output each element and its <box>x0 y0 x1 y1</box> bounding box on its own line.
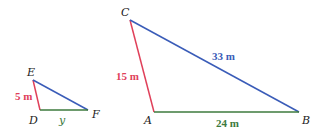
side-label-DF: y <box>58 114 66 127</box>
vertex-label-A: A <box>143 114 152 127</box>
vertex-label-E: E <box>26 66 35 79</box>
side-CB <box>130 20 299 112</box>
vertex-label-C: C <box>121 6 130 19</box>
vertex-label-D: D <box>28 114 38 127</box>
side-label-CA: 15 m <box>116 70 139 82</box>
similar-triangles-diagram: E D F 5 m y C A B 15 m 33 m 24 m <box>0 0 323 132</box>
side-EF <box>33 80 88 110</box>
vertex-label-F: F <box>91 108 100 121</box>
side-label-ED: 5 m <box>15 90 32 102</box>
side-label-AB: 24 m <box>216 117 239 129</box>
vertex-label-B: B <box>301 114 310 127</box>
side-ED <box>33 80 40 110</box>
small-triangle: E D F 5 m y <box>15 66 100 127</box>
side-CA <box>130 20 154 112</box>
side-label-CB: 33 m <box>212 50 235 62</box>
large-triangle: C A B 15 m 33 m 24 m <box>116 6 310 129</box>
